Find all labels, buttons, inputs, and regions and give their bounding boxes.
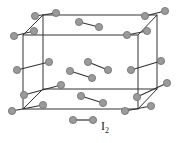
iodine-atom [69,116,76,123]
iodine-atom [121,107,128,114]
iodine-atom [31,12,38,19]
iodine-atom [163,79,170,86]
iodine-atom [13,66,20,73]
iodine-atom [147,102,154,109]
iodine-atom [89,116,96,123]
iodine-atom [143,27,150,34]
legend-label-sub: 2 [105,126,109,135]
iodine-atom [99,99,106,106]
iodine-atom [8,107,15,114]
iodine-atom [133,93,140,100]
iodine-atom [30,27,37,34]
iodine-atom [39,101,46,108]
iodine-crystal-diagram [0,0,180,143]
iodine-atom [45,58,52,65]
i2-molecule-bond [12,105,43,111]
iodine-atom [66,67,73,74]
iodine-atom [52,9,59,16]
iodine-atom [77,92,84,99]
iodine-atom [161,7,168,14]
legend-label: I2 [101,119,109,135]
iodine-atom [141,12,148,19]
iodine-atom [57,81,64,88]
iodine-atom [84,58,91,65]
iodine-atom [157,57,164,64]
iodine-atom [10,32,17,39]
iodine-atom [20,91,27,98]
i2-molecule-bond [17,62,49,70]
iodine-atom [88,74,95,81]
iodine-atom [95,23,102,30]
iodine-atom [127,66,134,73]
iodine-atom [104,66,111,73]
iodine-atom [123,31,130,38]
iodine-atom [75,18,82,25]
